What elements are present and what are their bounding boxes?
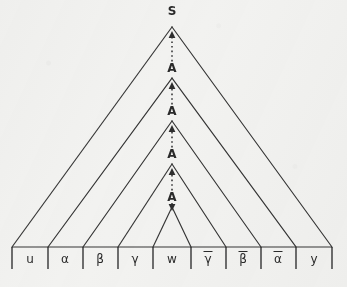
- triangle-1-right-edge: [172, 78, 296, 247]
- triangle-0-left-edge: [12, 27, 172, 247]
- leaf-8: y: [310, 252, 317, 266]
- leaf-6-label: β: [239, 252, 247, 266]
- derivation-arrow-0-head: [169, 31, 176, 38]
- leaf-1: α: [61, 252, 69, 266]
- derivation-arrow-1-head: [169, 82, 176, 89]
- node-root-S: S: [168, 4, 177, 18]
- tree-canvas: SAAAA uαβγwγβαy: [0, 0, 347, 287]
- derivation-arrow-4-head: [169, 204, 176, 211]
- derivation-arrow-2-head: [169, 125, 176, 132]
- leaf-8-label: y: [310, 252, 317, 266]
- node-nonterminal-A-0: A: [167, 61, 177, 75]
- node-nonterminal-A-3: A: [167, 190, 177, 204]
- leaf-5-label: γ: [204, 252, 211, 266]
- leaf-7: α: [274, 252, 283, 267]
- leaf-labels-group: uαβγwγβαy: [26, 252, 317, 267]
- leaf-0-label: u: [26, 252, 34, 266]
- leaf-3-label: γ: [131, 252, 138, 266]
- leaf-7-label: α: [274, 252, 282, 266]
- triangle-4: [153, 207, 191, 247]
- leaf-6: β: [239, 252, 248, 267]
- derivation-arrow-3-head: [169, 168, 176, 175]
- leaf-0: u: [26, 252, 34, 266]
- triangle-2: [83, 121, 261, 247]
- triangle-3-right-edge: [172, 164, 226, 247]
- triangle-4-left-edge: [153, 207, 172, 247]
- leaf-3: γ: [131, 252, 138, 266]
- leaf-2-label: β: [96, 252, 104, 266]
- derivation-arrow-4: [169, 203, 176, 211]
- triangle-1-left-edge: [48, 78, 172, 247]
- node-nonterminal-A-2: A: [167, 147, 177, 161]
- leaf-2: β: [96, 252, 104, 266]
- leaf-1-label: α: [61, 252, 69, 266]
- leaf-5: γ: [204, 252, 213, 267]
- node-nonterminal-A-1: A: [167, 104, 177, 118]
- triangle-0-right-edge: [172, 27, 332, 247]
- triangle-4-right-edge: [172, 207, 191, 247]
- leaf-4: w: [167, 252, 177, 266]
- leaf-4-label: w: [167, 252, 177, 266]
- derivation-tree-figure: SAAAA uαβγwγβαy: [0, 0, 347, 287]
- triangle-3-left-edge: [118, 164, 172, 247]
